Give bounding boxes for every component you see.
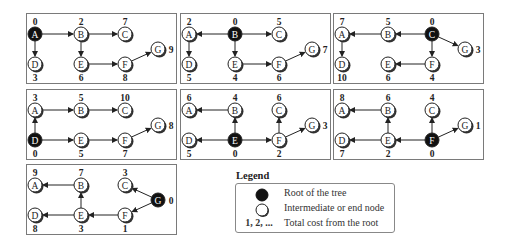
svg-text:F: F: [429, 136, 434, 146]
edge-f-g: [285, 52, 304, 61]
tree-panel-root-e: A6B4C6D5E0F2G3: [180, 89, 331, 160]
cost-label: 3: [323, 121, 328, 131]
svg-text:G: G: [155, 121, 162, 131]
svg-text:F: F: [122, 60, 127, 70]
node-d: D10: [335, 57, 351, 83]
svg-text:F: F: [429, 60, 434, 70]
svg-text:F: F: [122, 136, 127, 146]
svg-text:C: C: [276, 106, 282, 116]
cost-label: 2: [187, 17, 192, 27]
svg-text:G: G: [155, 196, 162, 206]
cost-label: 6: [277, 93, 282, 103]
node-g: G3: [305, 118, 328, 134]
svg-text:A: A: [186, 30, 193, 40]
legend-item-node: Intermediate or end node: [236, 202, 392, 217]
node-a: A6: [182, 93, 198, 119]
node-e: E4: [228, 57, 244, 83]
node-b: B4: [228, 93, 244, 119]
legend: Root of the tree Intermediate or end nod…: [235, 183, 395, 233]
node-g: G8: [151, 118, 174, 134]
svg-text:F: F: [276, 136, 281, 146]
svg-text:E: E: [385, 136, 391, 146]
cost-label: 10: [337, 73, 347, 83]
node-d: D3: [28, 57, 44, 83]
root-node-d: D0: [28, 133, 42, 159]
svg-text:F: F: [122, 211, 127, 221]
svg-text:G: G: [462, 121, 469, 131]
cost-label: 4: [430, 93, 435, 103]
svg-text:F: F: [276, 60, 281, 70]
cost-label: 4: [430, 73, 435, 83]
cost-label: 0: [169, 196, 174, 206]
cost-label: 5: [386, 17, 391, 27]
cost-label: 9: [33, 168, 38, 178]
svg-text:E: E: [385, 60, 391, 70]
root-node-c: C0: [425, 17, 439, 41]
tree-panel-root-g: A9B7C3D8E3F1G0: [26, 164, 177, 235]
cost-label: 0: [33, 17, 38, 27]
svg-text:E: E: [78, 136, 84, 146]
svg-text:D: D: [32, 60, 39, 70]
cost-label: 3: [33, 73, 38, 83]
node-c: C7: [118, 17, 134, 43]
svg-text:B: B: [78, 106, 84, 116]
cost-label: 7: [123, 17, 128, 27]
edge-f-g: [131, 52, 150, 61]
cost-label: 0: [233, 149, 238, 159]
svg-text:D: D: [339, 136, 346, 146]
cost-label: 1: [476, 121, 481, 131]
cost-label: 6: [277, 73, 282, 83]
svg-text:B: B: [385, 30, 391, 40]
svg-text:G: G: [309, 45, 316, 55]
node-f: F6: [272, 57, 288, 83]
tree-panel-root-a: A0B2C7D3E6F8G9: [26, 13, 177, 84]
edge-f-g: [438, 128, 457, 137]
cost-label: 2: [79, 17, 84, 27]
svg-text:D: D: [32, 211, 39, 221]
edge-g-c: [132, 188, 151, 197]
node-c: C10: [118, 93, 134, 119]
cost-label: 7: [340, 149, 345, 159]
svg-text:E: E: [78, 60, 84, 70]
root-node-a: A0: [28, 17, 42, 41]
cost-label: 5: [187, 73, 192, 83]
cost-label: 6: [187, 93, 192, 103]
svg-text:C: C: [429, 30, 435, 40]
node-b: B7: [74, 168, 90, 194]
cost-label: 3: [33, 93, 38, 103]
svg-text:A: A: [186, 106, 193, 116]
svg-text:A: A: [32, 106, 39, 116]
svg-text:B: B: [78, 30, 84, 40]
node-e: E3: [74, 208, 90, 234]
cost-label: 2: [277, 149, 282, 159]
edge-f-g: [285, 128, 304, 137]
node-g: G3: [458, 42, 481, 58]
legend-item-cost: 1, 2, ... Total cost from the root: [236, 217, 392, 232]
svg-text:C: C: [429, 106, 435, 116]
cost-label: 8: [123, 73, 128, 83]
svg-text:B: B: [385, 106, 391, 116]
cost-label: 0: [430, 149, 435, 159]
tree-panel-root-c: A7B5C0D10E6F4G3: [333, 13, 484, 84]
legend-title: Legend: [236, 170, 269, 181]
node-g: G9: [151, 42, 174, 58]
svg-text:B: B: [232, 106, 238, 116]
node-c: C4: [425, 93, 441, 119]
svg-text:E: E: [232, 136, 238, 146]
edge-f-g: [131, 128, 150, 137]
node-f: F8: [118, 57, 134, 83]
cost-label: 1: [123, 224, 128, 234]
root-node-f: F0: [425, 133, 439, 159]
cost-label: 8: [33, 224, 38, 234]
svg-text:A: A: [339, 30, 346, 40]
root-node-e: E0: [228, 133, 242, 159]
svg-text:C: C: [122, 181, 128, 191]
svg-text:G: G: [155, 45, 162, 55]
cost-label: 0: [430, 17, 435, 27]
edge-g-f: [132, 203, 151, 212]
svg-text:B: B: [78, 181, 84, 191]
node-a: A7: [335, 17, 351, 43]
cost-label: 8: [340, 93, 345, 103]
svg-text:C: C: [122, 106, 128, 116]
cost-label: 7: [79, 168, 84, 178]
